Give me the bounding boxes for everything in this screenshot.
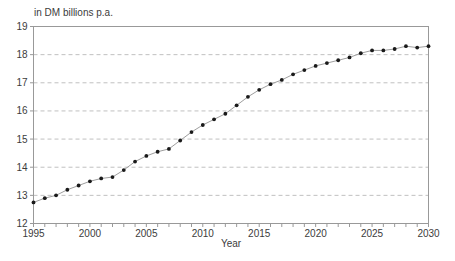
data-point <box>223 112 227 116</box>
data-point <box>291 72 295 76</box>
data-point <box>32 200 36 204</box>
data-point <box>235 103 239 107</box>
data-point <box>167 147 171 151</box>
data-point <box>269 82 273 86</box>
plot-frame <box>34 27 429 224</box>
y-tick-label: 14 <box>16 162 28 173</box>
data-point <box>88 179 92 183</box>
data-point <box>201 123 205 127</box>
data-point <box>314 64 318 68</box>
data-point <box>336 58 340 62</box>
data-point <box>359 51 363 55</box>
data-point <box>381 49 385 53</box>
data-point <box>302 68 306 72</box>
data-point <box>246 95 250 99</box>
y-tick-label: 15 <box>16 134 28 145</box>
y-tick-label: 13 <box>16 190 28 201</box>
y-tick-label: 19 <box>16 21 28 32</box>
data-point <box>144 154 148 158</box>
data-point <box>43 196 47 200</box>
data-point <box>111 175 115 179</box>
data-point <box>54 193 58 197</box>
plot-svg: 1213141516171819199520002005201020152020… <box>0 0 455 261</box>
x-axis-label: Year <box>33 238 429 249</box>
data-line <box>34 46 429 202</box>
y-tick-label: 16 <box>16 105 28 116</box>
y-tick-label: 18 <box>16 49 28 60</box>
data-point <box>190 130 194 134</box>
data-point <box>212 117 216 121</box>
line-chart: in DM billions p.a. 12131415161718191995… <box>0 0 455 261</box>
data-point <box>427 44 431 48</box>
data-point <box>257 88 261 92</box>
data-point <box>393 47 397 51</box>
data-point <box>370 49 374 53</box>
data-point <box>178 139 182 143</box>
data-point <box>65 188 69 192</box>
data-point <box>325 61 329 65</box>
y-tick-label: 17 <box>16 77 28 88</box>
data-point <box>156 150 160 154</box>
data-point <box>99 177 103 181</box>
data-point <box>415 46 419 50</box>
data-point <box>280 78 284 82</box>
data-point <box>133 160 137 164</box>
data-point <box>122 168 126 172</box>
data-point <box>348 56 352 60</box>
data-point <box>77 184 81 188</box>
data-point <box>404 44 408 48</box>
